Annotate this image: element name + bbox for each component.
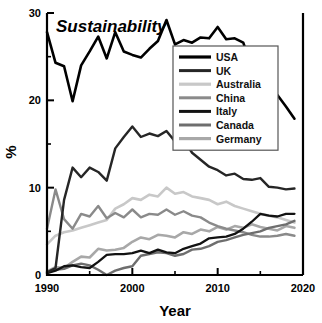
legend-label-uk: UK bbox=[216, 65, 232, 77]
y-tick-label: 20 bbox=[29, 94, 41, 106]
legend-label-germany: Germany bbox=[216, 133, 262, 145]
x-axis-title: Year bbox=[159, 302, 191, 319]
legend-label-usa: USA bbox=[216, 51, 239, 63]
x-tick-label: 2000 bbox=[120, 282, 144, 294]
x-tick-label: 2010 bbox=[205, 282, 229, 294]
y-axis-title: % bbox=[2, 145, 19, 158]
y-tick-label: 30 bbox=[29, 7, 41, 19]
chart-container: 0102030 1990200020102020 Sustainability … bbox=[0, 0, 322, 323]
legend-label-italy: Italy bbox=[216, 105, 237, 117]
y-tick-label: 0 bbox=[35, 269, 41, 281]
legend-label-australia: Australia bbox=[216, 78, 261, 90]
legend-label-china: China bbox=[216, 92, 245, 104]
x-tick-label: 1990 bbox=[35, 282, 59, 294]
chart-title: Sustainability bbox=[56, 17, 168, 36]
y-tick-label: 10 bbox=[29, 182, 41, 194]
legend-label-canada: Canada bbox=[216, 119, 254, 131]
chart-legend: USAUKAustraliaChinaItalyCanadaGermany bbox=[173, 46, 278, 150]
line-chart: 0102030 1990200020102020 Sustainability … bbox=[0, 0, 322, 323]
x-tick-label: 2020 bbox=[291, 282, 315, 294]
